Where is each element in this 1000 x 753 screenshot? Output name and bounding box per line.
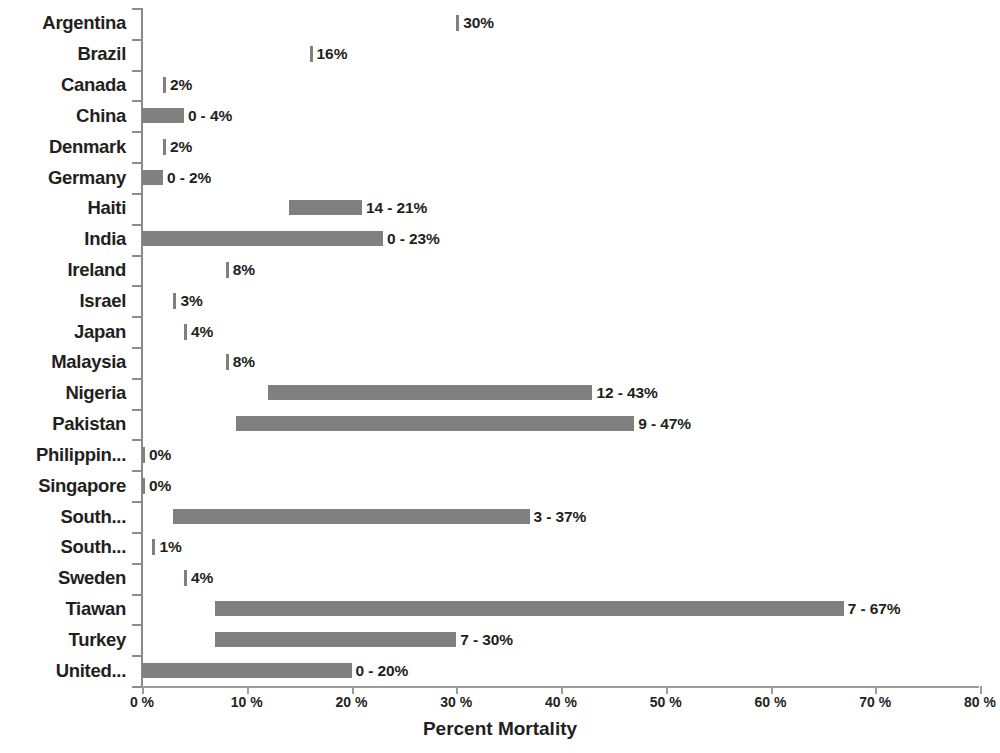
bar-value-label: 14 - 21% <box>366 199 427 217</box>
bar <box>173 293 176 309</box>
y-axis-category-label: Denmark <box>49 136 126 158</box>
y-axis-tick <box>132 70 142 72</box>
bar <box>268 385 593 400</box>
bar-value-label: 3% <box>180 292 202 310</box>
y-axis-tick <box>132 439 142 441</box>
bar-value-label: 0 - 23% <box>387 230 440 248</box>
y-axis-category-label: United... <box>56 660 126 682</box>
y-axis-tick <box>132 255 142 257</box>
bar <box>184 570 187 586</box>
x-axis-tick-label: 50 % <box>650 694 682 710</box>
bar-value-label: 16% <box>317 45 348 63</box>
bar-value-label: 8% <box>233 261 255 279</box>
y-axis-category-label: Canada <box>61 74 126 96</box>
y-axis-tick <box>132 532 142 534</box>
x-axis-tick <box>666 686 668 694</box>
y-axis-category-label: Haiti <box>87 197 126 219</box>
bar <box>236 416 634 431</box>
y-axis-tick <box>132 162 142 164</box>
bar-value-label: 0% <box>149 446 171 464</box>
x-axis-tick <box>980 686 982 694</box>
bar <box>215 601 844 616</box>
y-axis-tick <box>132 100 142 102</box>
bar-value-label: 4% <box>191 569 213 587</box>
y-axis-tick <box>132 470 142 472</box>
bar <box>163 77 166 93</box>
y-axis-category-label: Philippin... <box>36 444 126 466</box>
bar-value-label: 0 - 2% <box>167 169 211 187</box>
bar-value-label: 0 - 4% <box>188 107 232 125</box>
bar <box>456 15 459 31</box>
y-axis-category-label: Tiawan <box>65 598 126 620</box>
y-axis-category-label: Singapore <box>38 475 126 497</box>
y-axis-category-label: Malaysia <box>51 351 126 373</box>
bar-value-label: 0% <box>149 477 171 495</box>
bar-value-label: 0 - 20% <box>356 662 409 680</box>
x-axis-line <box>141 686 979 688</box>
y-axis-category-label: South... <box>61 506 126 528</box>
y-axis-tick <box>132 285 142 287</box>
y-axis-tick <box>132 594 142 596</box>
y-axis-category-label: Nigeria <box>65 382 126 404</box>
y-axis-tick <box>132 655 142 657</box>
y-axis-category-label: Pakistan <box>52 413 126 435</box>
bar <box>142 447 145 463</box>
y-axis-tick <box>132 224 142 226</box>
bar <box>226 354 229 370</box>
x-axis-tick-label: 70 % <box>859 694 891 710</box>
bar-value-label: 2% <box>170 76 192 94</box>
bar-value-label: 7 - 67% <box>848 600 901 618</box>
y-axis-tick <box>132 193 142 195</box>
bar-value-label: 12 - 43% <box>596 384 657 402</box>
x-axis-tick-label: 20 % <box>336 694 368 710</box>
percent-mortality-bar-chart: ArgentinaBrazilCanadaChinaDenmarkGermany… <box>0 0 1000 753</box>
x-axis-tick <box>561 686 563 694</box>
bar-value-label: 4% <box>191 323 213 341</box>
y-axis-tick <box>132 563 142 565</box>
y-axis-tick <box>132 316 142 318</box>
y-axis-tick <box>132 409 142 411</box>
bar <box>142 231 383 246</box>
y-axis-category-label: Brazil <box>77 43 126 65</box>
plot-area: 30%16%2%0 - 4%2%0 - 2%14 - 21%0 - 23%8%3… <box>142 8 980 686</box>
bar <box>142 478 145 494</box>
bar <box>226 262 229 278</box>
x-axis-tick-label: 60 % <box>755 694 787 710</box>
bar-value-label: 2% <box>170 138 192 156</box>
bar <box>142 108 184 123</box>
bar-value-label: 1% <box>159 538 181 556</box>
x-axis-tick <box>456 686 458 694</box>
y-axis-tick <box>132 624 142 626</box>
bar-value-label: 8% <box>233 353 255 371</box>
y-axis-category-labels: ArgentinaBrazilCanadaChinaDenmarkGermany… <box>0 8 134 686</box>
x-axis-tick <box>142 686 144 694</box>
bar-value-label: 9 - 47% <box>638 415 691 433</box>
bar <box>152 539 155 555</box>
y-axis-tick <box>132 39 142 41</box>
x-axis-tick-label: 0 % <box>130 694 154 710</box>
y-axis-category-label: Germany <box>48 167 126 189</box>
bar-value-label: 30% <box>463 14 494 32</box>
bar <box>310 46 313 62</box>
y-axis-category-label: Sweden <box>58 567 126 589</box>
y-axis-category-label: South... <box>61 536 126 558</box>
x-axis-tick-label: 10 % <box>231 694 263 710</box>
y-axis-tick <box>132 8 142 10</box>
y-axis-tick <box>132 686 142 688</box>
y-axis-category-label: Ireland <box>67 259 126 281</box>
y-axis-category-label: Turkey <box>69 629 127 651</box>
y-axis-tick <box>132 378 142 380</box>
bar <box>142 170 163 185</box>
bar <box>289 200 362 215</box>
bar <box>173 509 529 524</box>
x-axis-tick-label: 40 % <box>545 694 577 710</box>
x-axis-tick-label: 30 % <box>440 694 472 710</box>
x-axis-tick <box>875 686 877 694</box>
bar-value-label: 7 - 30% <box>460 631 513 649</box>
y-axis-category-label: Israel <box>79 290 126 312</box>
bar <box>163 139 166 155</box>
x-axis-tick-label: 80 % <box>964 694 996 710</box>
y-axis-tick <box>132 347 142 349</box>
y-axis-category-label: China <box>76 105 126 127</box>
bar-value-label: 3 - 37% <box>534 508 587 526</box>
